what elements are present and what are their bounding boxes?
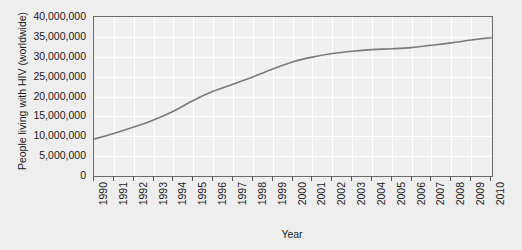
x-axis-tick-mark (153, 176, 154, 181)
x-axis-tick-label: 1991 (118, 182, 129, 222)
x-axis-tick-mark (430, 176, 431, 181)
y-axis-tick-label: 25,000,000 (22, 71, 86, 81)
series-path (94, 38, 491, 139)
x-axis-tick-mark (133, 176, 134, 181)
x-axis-tick-label: 1990 (98, 182, 109, 222)
x-axis-tick-mark (391, 176, 392, 181)
x-axis-tick-label: 1994 (177, 182, 188, 222)
x-axis-tick-mark (192, 176, 193, 181)
x-axis-tick-label: 1993 (158, 182, 169, 222)
x-axis-tick-label: 2002 (336, 182, 347, 222)
x-axis-tick-mark (331, 176, 332, 181)
x-axis-tick-mark (470, 176, 471, 181)
x-axis-tick-label: 1996 (217, 182, 228, 222)
x-axis-tick-mark (490, 176, 491, 181)
x-axis-tick-mark (351, 176, 352, 181)
x-axis-tick-mark (113, 176, 114, 181)
plot-inner (94, 17, 492, 176)
x-axis-tick-label: 2004 (376, 182, 387, 222)
y-axis-tick-label: 15,000,000 (22, 110, 86, 120)
x-axis-tick-mark (93, 176, 94, 181)
x-axis-tick-label: 2009 (475, 182, 486, 222)
x-axis-title: Year (93, 228, 491, 240)
x-axis-tick-label: 2008 (455, 182, 466, 222)
x-axis-tick-mark (311, 176, 312, 181)
y-axis-tick-label-group: 05,000,00010,000,00015,000,00020,000,000… (22, 10, 86, 182)
x-axis-tick-label-group: 1990199119921993199419951996199719981999… (0, 182, 522, 222)
x-axis-tick-label: 2001 (316, 182, 327, 222)
x-axis-tick-label: 2010 (495, 182, 506, 222)
x-axis-tick-label: 2006 (416, 182, 427, 222)
plot-area (93, 16, 493, 177)
x-axis-tick-label: 2003 (356, 182, 367, 222)
data-series-line (94, 17, 492, 176)
chart-container: People living with HIV (worldwide) 05,00… (0, 0, 522, 250)
x-axis-tick-label: 1998 (257, 182, 268, 222)
y-axis-tick-label: 30,000,000 (22, 51, 86, 61)
y-axis-tick-label: 20,000,000 (22, 91, 86, 101)
x-axis-tick-label: 1999 (277, 182, 288, 222)
x-axis-tick-mark (292, 176, 293, 181)
x-axis-tick-label: 2005 (396, 182, 407, 222)
y-axis-tick-label: 40,000,000 (22, 11, 86, 21)
y-axis-tick-label: 10,000,000 (22, 130, 86, 140)
y-axis-tick-label: 35,000,000 (22, 31, 86, 41)
x-axis-tick-label: 1997 (237, 182, 248, 222)
x-axis-tick-mark (212, 176, 213, 181)
x-axis-tick-mark (371, 176, 372, 181)
y-axis-tick-label: 0 (22, 170, 86, 180)
x-axis-tick-mark (272, 176, 273, 181)
x-axis-tick-label: 2007 (435, 182, 446, 222)
x-axis-tick-label: 2000 (297, 182, 308, 222)
y-axis-tick-label: 5,000,000 (22, 150, 86, 160)
x-axis-tick-mark (411, 176, 412, 181)
x-axis-tick-mark (172, 176, 173, 181)
x-axis-tick-mark (252, 176, 253, 181)
x-axis-tick-label: 1992 (138, 182, 149, 222)
x-axis-tick-label: 1995 (197, 182, 208, 222)
x-axis-tick-mark (232, 176, 233, 181)
x-axis-tick-mark (450, 176, 451, 181)
